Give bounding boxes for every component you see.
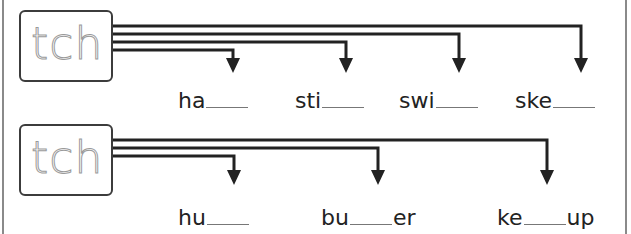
word-item: buer xyxy=(321,207,416,229)
trace-letters: tch xyxy=(31,18,103,69)
answer-blank[interactable] xyxy=(350,223,392,225)
answer-blank[interactable] xyxy=(553,106,595,108)
word-item: hu xyxy=(178,207,250,229)
word-prefix: bu xyxy=(321,205,349,230)
word-item: swi xyxy=(399,90,479,112)
answer-blank[interactable] xyxy=(436,106,478,108)
word-prefix: hu xyxy=(178,205,206,230)
exercise-row-1: tch ha sti swi ske xyxy=(0,0,631,120)
word-item: ske xyxy=(515,90,596,112)
word-prefix: sti xyxy=(295,88,321,113)
answer-blank[interactable] xyxy=(206,106,248,108)
word-suffix: up xyxy=(567,205,595,230)
word-item: ha xyxy=(178,90,249,112)
word-item: sti xyxy=(295,90,365,112)
word-prefix: ha xyxy=(178,88,205,113)
word-prefix: swi xyxy=(399,88,435,113)
answer-blank[interactable] xyxy=(524,223,566,225)
tracing-box: tch xyxy=(19,124,113,196)
word-prefix: ske xyxy=(515,88,552,113)
word-item: keup xyxy=(497,207,594,229)
tracing-box: tch xyxy=(19,10,113,82)
answer-blank[interactable] xyxy=(207,223,249,225)
word-prefix: ke xyxy=(497,205,523,230)
answer-blank[interactable] xyxy=(322,106,364,108)
trace-letters: tch xyxy=(31,132,103,183)
word-suffix: er xyxy=(393,205,416,230)
exercise-row-2: tch hu buer keup xyxy=(0,114,631,234)
